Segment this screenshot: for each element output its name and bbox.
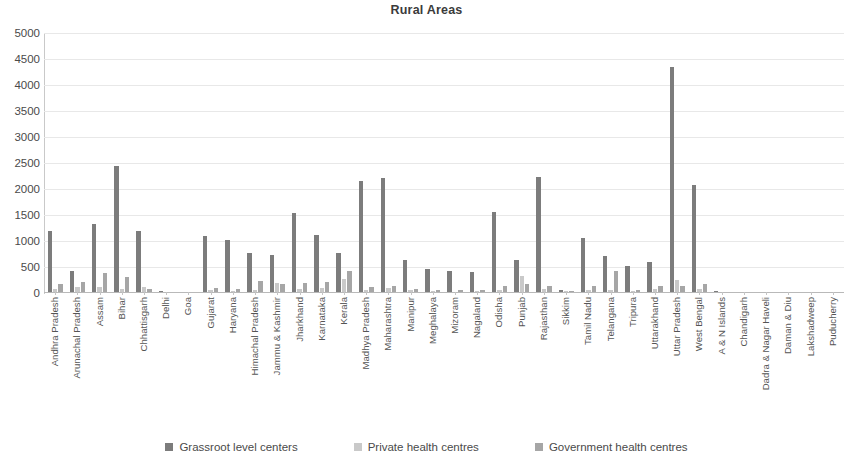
bar-group: [111, 33, 133, 293]
x-axis-label: Manipur: [406, 297, 416, 332]
x-tick-mark: [744, 292, 745, 295]
x-tick-mark: [655, 292, 656, 295]
x-axis-label: Puducherry: [828, 297, 838, 346]
legend-item[interactable]: Grassroot level centers: [165, 441, 297, 453]
bar-group: [755, 33, 777, 293]
legend-swatch-icon: [165, 443, 173, 451]
bar[interactable]: [603, 256, 607, 293]
x-label-cell: A & N Islands: [711, 295, 733, 420]
x-axis-label: Dadra & Nagar Haveli: [761, 297, 771, 390]
x-label-cell: Uttar Pradesh: [666, 295, 688, 420]
x-axis-label: Telangana: [606, 297, 616, 341]
x-axis-label: Punjab: [517, 297, 527, 327]
x-axis-label: Meghalaya: [428, 297, 438, 344]
bar[interactable]: [92, 224, 96, 293]
bar[interactable]: [381, 178, 385, 293]
x-tick-mark: [722, 292, 723, 295]
bar[interactable]: [314, 235, 318, 293]
x-tick-mark: [477, 292, 478, 295]
bar[interactable]: [614, 271, 618, 293]
bar[interactable]: [647, 262, 651, 293]
bar-group: [288, 33, 310, 293]
legend-item[interactable]: Private health centres: [354, 441, 479, 453]
x-tick-mark: [499, 292, 500, 295]
x-axis-label: Haryana: [228, 297, 238, 333]
bar[interactable]: [359, 181, 363, 293]
x-label-cell: Telangana: [599, 295, 621, 420]
x-axis-label: Chandigarh: [739, 297, 749, 347]
x-axis-label: Nagaland: [472, 297, 482, 338]
x-axis-label: Daman & Diu: [784, 297, 794, 354]
x-tick-mark: [77, 292, 78, 295]
x-axis-label: Andhra Pradesh: [50, 297, 60, 366]
bar[interactable]: [203, 236, 207, 293]
bar[interactable]: [347, 271, 351, 293]
bar[interactable]: [48, 231, 52, 293]
bar[interactable]: [520, 276, 524, 293]
bar[interactable]: [670, 67, 674, 293]
x-label-cell: Mizoram: [444, 295, 466, 420]
bar-group: [511, 33, 533, 293]
x-tick-mark: [122, 292, 123, 295]
bar[interactable]: [70, 271, 74, 293]
x-axis-label: Jharkhand: [295, 297, 305, 342]
x-tick-mark: [233, 292, 234, 295]
legend-swatch-icon: [535, 443, 543, 451]
legend-label: Grassroot level centers: [179, 441, 297, 453]
bar[interactable]: [581, 238, 585, 293]
x-label-cell: Chhattisgarh: [133, 295, 155, 420]
x-axis-label: Bihar: [117, 297, 127, 319]
x-label-cell: Sikkim: [555, 295, 577, 420]
x-tick-mark: [300, 292, 301, 295]
x-tick-mark: [433, 292, 434, 295]
x-label-cell: Uttarakhand: [644, 295, 666, 420]
bar[interactable]: [342, 279, 346, 293]
bar-group: [400, 33, 422, 293]
x-tick-mark: [677, 292, 678, 295]
bar[interactable]: [270, 255, 274, 293]
bar[interactable]: [514, 260, 518, 293]
x-axis-label: Delhi: [161, 297, 171, 319]
x-axis-label: Odisha: [495, 297, 505, 327]
bar-group: [666, 33, 688, 293]
bar[interactable]: [336, 253, 340, 293]
chart-title: Rural Areas: [0, 3, 853, 17]
x-label-cell: Haryana: [222, 295, 244, 420]
x-axis-label: Kerala: [339, 297, 349, 325]
legend-label: Private health centres: [368, 441, 479, 453]
x-tick-mark: [611, 292, 612, 295]
bar[interactable]: [692, 185, 696, 293]
bar[interactable]: [536, 177, 540, 293]
bar[interactable]: [225, 240, 229, 293]
bar[interactable]: [447, 271, 451, 293]
bar[interactable]: [403, 260, 407, 293]
bar-group: [466, 33, 488, 293]
x-axis-label: Tamil Nadu: [584, 297, 594, 345]
bar[interactable]: [114, 166, 118, 293]
x-axis-label: Assam: [95, 297, 105, 326]
bar[interactable]: [125, 277, 129, 293]
bar[interactable]: [103, 273, 107, 293]
x-tick-mark: [322, 292, 323, 295]
x-label-cell: Maharashtra: [377, 295, 399, 420]
x-axis-label: Uttarakhand: [650, 297, 660, 349]
bar[interactable]: [492, 212, 496, 293]
plot-area: [44, 33, 844, 293]
bar[interactable]: [425, 269, 429, 293]
bar[interactable]: [625, 266, 629, 293]
legend-item[interactable]: Government health centres: [535, 441, 688, 453]
bar[interactable]: [247, 253, 251, 293]
x-label-cell: Karnataka: [311, 295, 333, 420]
x-tick-mark: [388, 292, 389, 295]
bar[interactable]: [292, 213, 296, 293]
x-label-cell: Daman & Diu: [777, 295, 799, 420]
x-label-cell: Punjab: [511, 295, 533, 420]
x-axis-label: West Bengal: [695, 297, 705, 351]
y-tick-3000: 3000: [0, 131, 40, 143]
bar-group: [244, 33, 266, 293]
bar-group: [599, 33, 621, 293]
bar[interactable]: [470, 272, 474, 293]
x-label-cell: Gujarat: [200, 295, 222, 420]
bar[interactable]: [136, 231, 140, 293]
x-tick-mark: [788, 292, 789, 295]
